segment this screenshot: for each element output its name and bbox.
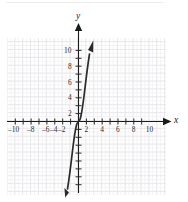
x-axis-label: x [174,116,178,126]
y-tick-label-6: 6 [68,79,72,86]
x-tick-label-6: 6 [116,126,120,133]
cubic-function-graph: –10 –8 –6 –4 –2 2 4 6 8 10 2 4 6 8 10 x … [0,0,188,202]
x-tick-label-neg10: –10 [8,126,19,133]
x-tick-label-neg4: –4 [50,126,57,133]
x-tick-label-neg8: –8 [27,126,34,133]
y-axis-arrowhead [75,23,82,31]
x-axis-arrowhead [163,118,172,125]
curve-arrow-down [64,188,69,198]
y-tick-label-4: 4 [68,94,72,101]
y-tick-label-2: 2 [68,110,72,117]
curve-arrow-up [88,41,93,53]
y-tick-label-10: 10 [64,47,71,54]
x-tick-label-neg2: –2 [58,126,65,133]
x-tick-label-2: 2 [85,126,89,133]
x-tick-label-8: 8 [132,126,136,133]
y-tick-label-8: 8 [68,63,72,70]
plot-svg [0,0,188,202]
x-tick-label-neg6: –6 [42,126,49,133]
x-tick-label-10: 10 [146,126,153,133]
y-axis-label: y [76,12,80,22]
x-tick-label-4: 4 [100,126,104,133]
